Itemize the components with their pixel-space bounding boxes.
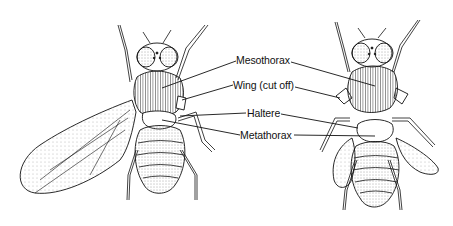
- label-wing-cut-off: Wing (cut off): [233, 79, 294, 91]
- right-mesothorax: [348, 66, 398, 113]
- label-mesothorax: Mesothorax: [236, 54, 290, 66]
- left-wing: [20, 100, 136, 193]
- diagram-drawing: [0, 0, 453, 226]
- label-metathorax: Metathorax: [240, 129, 292, 141]
- right-metathorax: [357, 120, 393, 143]
- right-haltere-wing-right: [396, 138, 438, 174]
- left-mesothorax: [134, 71, 184, 116]
- right-fly: [320, 20, 438, 210]
- fly-anatomy-diagram: Mesothorax Wing (cut off) Haltere Metath…: [0, 0, 453, 226]
- left-fly: [20, 25, 215, 200]
- label-haltere: Haltere: [247, 107, 280, 119]
- right-abdomen: [351, 142, 399, 208]
- left-abdomen: [135, 126, 185, 194]
